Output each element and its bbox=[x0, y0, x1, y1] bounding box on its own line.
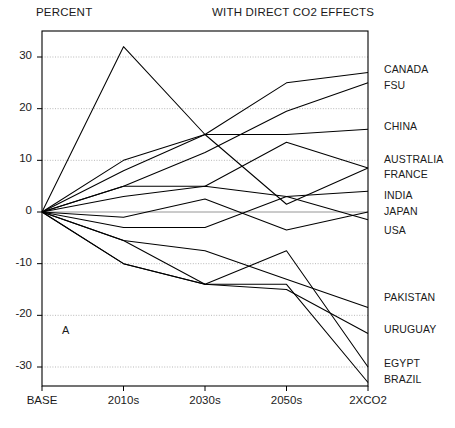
series-label-canada: CANADA bbox=[384, 63, 428, 75]
series-lines bbox=[42, 47, 368, 383]
series-label-australia: AUSTRALIA bbox=[384, 153, 443, 165]
x-tick-label: 2010s bbox=[84, 394, 164, 406]
y-tick-label: -30 bbox=[0, 359, 32, 371]
series-label-uruguay: URUGUAY bbox=[384, 323, 436, 335]
axis-ticks bbox=[37, 57, 368, 391]
series-label-egypt: EGYPT bbox=[384, 357, 420, 369]
series-line-egypt bbox=[42, 212, 368, 367]
x-tick-label: 2050s bbox=[247, 394, 327, 406]
y-tick-label: 10 bbox=[0, 152, 32, 164]
series-line-japan bbox=[42, 199, 368, 230]
series-label-fsu: FSU bbox=[384, 79, 405, 91]
axes-frame bbox=[42, 31, 368, 386]
y-tick-label: 20 bbox=[0, 101, 32, 113]
series-line-fsu bbox=[42, 83, 368, 212]
series-label-china: CHINA bbox=[384, 120, 417, 132]
x-tick-label: 2XCO2 bbox=[328, 394, 408, 406]
panel-label: A bbox=[62, 324, 69, 336]
gridlines bbox=[42, 57, 368, 367]
series-line-canada bbox=[42, 73, 368, 213]
x-tick-label: BASE bbox=[2, 394, 82, 406]
y-tick-label: -20 bbox=[0, 307, 32, 319]
series-line-pakistan bbox=[42, 212, 368, 308]
chart-page: PERCENT WITH DIRECT CO2 EFFECTS 3020100-… bbox=[0, 0, 455, 428]
y-tick-label: 0 bbox=[0, 204, 32, 216]
series-line-uruguay bbox=[42, 212, 368, 333]
y-tick-label: 30 bbox=[0, 49, 32, 61]
series-label-pakistan: PAKISTAN bbox=[384, 291, 435, 303]
label-leader-lines bbox=[368, 70, 378, 383]
series-label-usa: USA bbox=[384, 224, 406, 236]
series-label-france: FRANCE bbox=[384, 168, 428, 180]
y-tick-label: -10 bbox=[0, 256, 32, 268]
series-label-india: INDIA bbox=[384, 189, 413, 201]
series-label-brazil: BRAZIL bbox=[384, 373, 421, 385]
series-label-japan: JAPAN bbox=[384, 205, 418, 217]
x-tick-label: 2030s bbox=[165, 394, 245, 406]
